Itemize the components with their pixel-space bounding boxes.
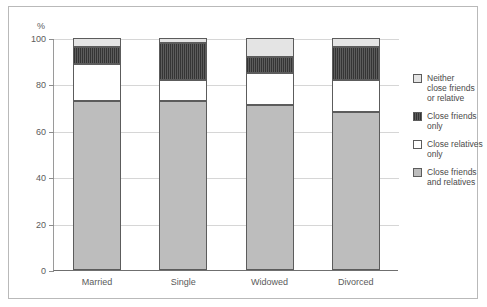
- bar-segment[interactable]: [73, 101, 121, 270]
- bar-widowed[interactable]: [246, 38, 294, 270]
- bar-segment[interactable]: [332, 38, 380, 47]
- chart-legend: Neitherclose friendsor relativeClose fri…: [413, 73, 487, 195]
- legend-swatch-icon: [413, 112, 422, 121]
- y-axis-tick: [49, 271, 54, 272]
- legend-swatch-icon: [413, 168, 422, 177]
- legend-swatch-icon: [413, 140, 422, 149]
- y-axis-tick: [49, 178, 54, 179]
- legend-label: Close friendsonly: [427, 111, 487, 131]
- y-axis-tick-label: 100: [31, 34, 46, 44]
- bar-segment[interactable]: [332, 80, 380, 112]
- bar-segment[interactable]: [159, 38, 207, 43]
- y-axis-tick-label: 60: [36, 127, 46, 137]
- bar-segment[interactable]: [73, 47, 121, 63]
- bar-segment[interactable]: [159, 101, 207, 270]
- bar-single[interactable]: [159, 38, 207, 270]
- plot-area: 100806040200 MarriedSingleWidowedDivorce…: [53, 39, 398, 271]
- bar-segment[interactable]: [332, 47, 380, 79]
- legend-item[interactable]: Close relativesonly: [413, 139, 487, 159]
- bar-segment[interactable]: [159, 43, 207, 80]
- chart-figure: % 100806040200 MarriedSingleWidowedDivor…: [0, 0, 487, 307]
- x-axis-label-married: Married: [54, 277, 140, 287]
- bar-segment[interactable]: [332, 112, 380, 270]
- bar-divorced[interactable]: [332, 38, 380, 270]
- y-axis-tick-label: 0: [41, 266, 46, 276]
- legend-label: Close relativesonly: [427, 139, 487, 159]
- legend-label: Close friendsand relatives: [427, 167, 487, 187]
- chart-frame: % 100806040200 MarriedSingleWidowedDivor…: [8, 6, 478, 299]
- y-axis-unit-label: %: [37, 21, 45, 31]
- legend-swatch-icon: [413, 74, 422, 83]
- bar-married[interactable]: [73, 38, 121, 270]
- bar-segment[interactable]: [159, 80, 207, 101]
- y-axis-tick: [49, 39, 54, 40]
- legend-item[interactable]: Neitherclose friendsor relative: [413, 73, 487, 103]
- y-axis-tick-label: 80: [36, 80, 46, 90]
- x-axis-label-widowed: Widowed: [227, 277, 313, 287]
- y-axis-tick: [49, 225, 54, 226]
- bar-segment[interactable]: [73, 64, 121, 101]
- y-axis-tick-label: 20: [36, 220, 46, 230]
- bar-segment[interactable]: [246, 57, 294, 73]
- y-axis-tick-label: 40: [36, 173, 46, 183]
- bar-segment[interactable]: [73, 38, 121, 47]
- bar-segment[interactable]: [246, 73, 294, 105]
- x-axis-label-single: Single: [140, 277, 226, 287]
- bar-segment[interactable]: [246, 105, 294, 270]
- legend-item[interactable]: Close friendsand relatives: [413, 167, 487, 187]
- y-axis-tick: [49, 85, 54, 86]
- legend-label: Neitherclose friendsor relative: [427, 73, 487, 103]
- y-axis-tick: [49, 132, 54, 133]
- x-axis-label-divorced: Divorced: [313, 277, 399, 287]
- legend-item[interactable]: Close friendsonly: [413, 111, 487, 131]
- bar-segment[interactable]: [246, 38, 294, 57]
